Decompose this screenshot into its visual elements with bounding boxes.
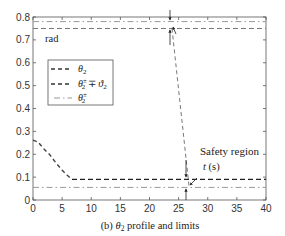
safety-region-label: Safety region bbox=[200, 145, 259, 157]
y-tick-label: 0.1 bbox=[16, 172, 30, 183]
y-tick-label: 0.6 bbox=[16, 57, 30, 68]
legend: θ2 θ±2 ∓ ϑ2 θ±2 bbox=[48, 60, 113, 105]
arrow-top-diag bbox=[173, 27, 176, 34]
y-tick-label: 0.5 bbox=[16, 80, 30, 91]
chart-caption: (b) θ2 profile and limits bbox=[101, 220, 200, 233]
time-unit-label: t (s) bbox=[203, 161, 220, 173]
chart: 00.10.20.30.40.50.60.70.8 05101520253035… bbox=[0, 0, 285, 236]
x-tick-label: 40 bbox=[260, 203, 272, 214]
x-tick-label: 15 bbox=[115, 203, 127, 214]
x-tick-label: 35 bbox=[231, 203, 243, 214]
transition-line bbox=[172, 29, 189, 187]
rad-label: rad bbox=[45, 33, 59, 44]
x-axis-ticks: 0510152025303540 bbox=[30, 17, 272, 214]
y-tick-label: 0.3 bbox=[16, 126, 30, 137]
y-tick-label: 0.7 bbox=[16, 34, 30, 45]
y-tick-label: 0.4 bbox=[16, 103, 30, 114]
x-tick-label: 30 bbox=[202, 203, 214, 214]
x-tick-label: 20 bbox=[144, 203, 156, 214]
plot-area bbox=[33, 17, 266, 200]
y-tick-label: 0.8 bbox=[16, 12, 30, 23]
x-tick-label: 10 bbox=[86, 203, 98, 214]
legend-entry-limits-minus-margin: θ±2 ∓ ϑ2 bbox=[78, 77, 107, 91]
x-tick-label: 0 bbox=[30, 203, 36, 214]
y-tick-label: 0.2 bbox=[16, 149, 30, 160]
x-tick-label: 25 bbox=[173, 203, 185, 214]
x-tick-label: 5 bbox=[59, 203, 65, 214]
theta2-profile bbox=[33, 140, 72, 179]
